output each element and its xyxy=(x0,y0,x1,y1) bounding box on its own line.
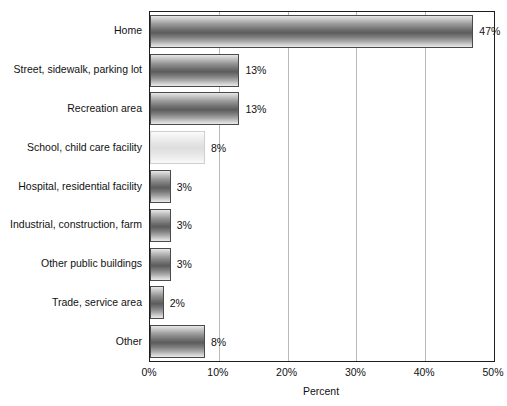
plot-area: 47%13%13%8%3%3%3%2%8% xyxy=(149,11,495,362)
bar xyxy=(150,92,239,125)
category-label: Industrial, construction, farm xyxy=(0,218,142,230)
bar xyxy=(150,325,205,358)
bar-value-label: 2% xyxy=(170,297,185,309)
gridline xyxy=(356,12,357,361)
bar-value-label: 3% xyxy=(177,258,192,270)
category-axis-labels: HomeStreet, sidewalk, parking lotRecreat… xyxy=(0,11,142,360)
bar xyxy=(150,131,205,164)
bar-value-label: 3% xyxy=(177,181,192,193)
bar xyxy=(150,286,164,319)
gridline xyxy=(288,12,289,361)
category-label: Other public buildings xyxy=(0,257,142,269)
bar-value-label: 3% xyxy=(177,219,192,231)
bar-chart: HomeStreet, sidewalk, parking lotRecreat… xyxy=(0,0,507,406)
x-axis-title: Percent xyxy=(149,385,493,397)
bar xyxy=(150,15,473,48)
category-label: Street, sidewalk, parking lot xyxy=(0,63,142,75)
category-label: Recreation area xyxy=(0,102,142,114)
bar-value-label: 8% xyxy=(211,336,226,348)
x-tick-label: 0% xyxy=(141,366,156,378)
category-label: Other xyxy=(0,335,142,347)
bar-value-label: 13% xyxy=(245,64,266,76)
x-tick-label: 50% xyxy=(482,366,503,378)
category-label: School, child care facility xyxy=(0,141,142,153)
category-label: Trade, service area xyxy=(0,296,142,308)
category-label: Hospital, residential facility xyxy=(0,180,142,192)
bar-value-label: 8% xyxy=(211,142,226,154)
bar-value-label: 13% xyxy=(245,103,266,115)
bar xyxy=(150,209,171,242)
bar xyxy=(150,248,171,281)
x-tick-label: 10% xyxy=(207,366,228,378)
bar-value-label: 47% xyxy=(479,25,500,37)
x-tick-label: 40% xyxy=(414,366,435,378)
category-label: Home xyxy=(0,24,142,36)
x-tick-label: 20% xyxy=(276,366,297,378)
x-tick-label: 30% xyxy=(345,366,366,378)
bar xyxy=(150,54,239,87)
gridline xyxy=(425,12,426,361)
bar xyxy=(150,170,171,203)
